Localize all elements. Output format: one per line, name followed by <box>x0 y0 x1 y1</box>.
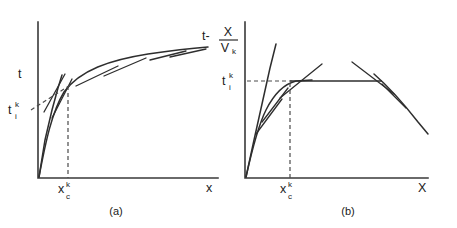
panel-a-intercept-label-superscript: k <box>15 100 20 109</box>
panel-a-y-axis-label: t <box>18 67 22 81</box>
panel-b-intercept-label-superscript: k <box>229 71 234 80</box>
panel-b-y-axis-label-base: t- <box>202 29 210 43</box>
panel-a-crossover-label-base: x <box>58 182 65 196</box>
panel-b-crossover-label: x k c <box>280 180 293 201</box>
panel-b-crossover-label-base: x <box>280 182 287 196</box>
panel-a-crossover-label: x k c <box>58 180 71 201</box>
panel-a-intercept-label: t k i <box>8 100 20 121</box>
panel-b-intercept-label-base: t <box>222 74 226 88</box>
panel-a-intercept-dashed-line <box>31 84 72 110</box>
panel-a-caption: (a) <box>109 205 122 217</box>
panel-a-crossover-label-superscript: k <box>66 180 71 189</box>
panel-b-intercept-label-subscript: i <box>229 83 231 92</box>
panel-b-crossover-label-superscript: k <box>288 180 293 189</box>
panel-b-y-axis-label: t- X V k <box>202 25 238 56</box>
panel-a-travel-time-curve <box>39 47 208 177</box>
panel-a-intercept-label-subscript: i <box>15 112 17 121</box>
panel-b-y-axis-denominator-base: V <box>221 41 230 55</box>
panel-b-descending-branch <box>374 74 428 134</box>
two-panel-travel-time-figure: t x t k i x k c (a) <box>0 0 457 228</box>
panel-a-tangent-segment <box>104 58 146 76</box>
panel-a-intercept-label-base: t <box>8 103 12 117</box>
panel-b-tangent-segment <box>262 88 288 122</box>
panel-a-x-axis-label: x <box>206 181 213 195</box>
panel-a-tangent-segment <box>76 66 118 86</box>
panel-b-intercept-label: t k i <box>222 71 234 92</box>
figure-container: t x t k i x k c (a) <box>0 0 457 228</box>
panel-b-y-axis-denominator-subscript: k <box>232 47 237 56</box>
panel-a-tangent-segment <box>44 74 65 112</box>
panel-a: t x t k i x k c (a) <box>8 22 218 217</box>
panel-b: t- X V k X t k i x k c (b) <box>202 22 428 217</box>
panel-b-x-axis-label: X <box>418 181 427 195</box>
panel-b-tangent-segment <box>382 84 406 108</box>
panel-b-caption: (b) <box>341 205 354 217</box>
panel-b-crossover-label-subscript: c <box>288 192 292 201</box>
panel-a-axes <box>38 22 218 178</box>
panel-b-y-axis-numerator: X <box>224 25 233 39</box>
panel-a-crossover-label-subscript: c <box>66 192 70 201</box>
